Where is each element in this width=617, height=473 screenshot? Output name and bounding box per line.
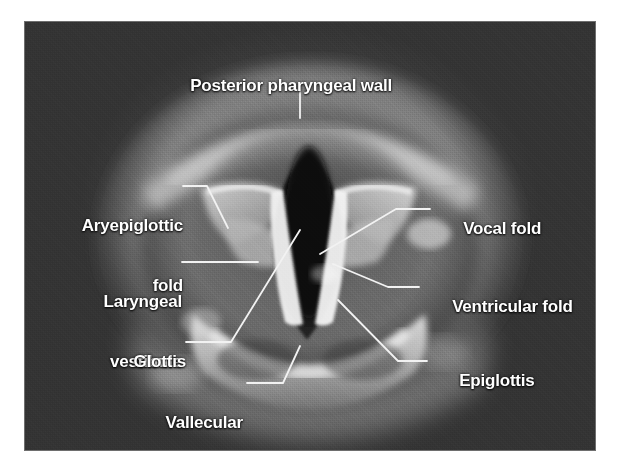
label-text-epiglottis: Epiglottis bbox=[459, 371, 534, 390]
label-vallecular-space: Vallecular space bbox=[100, 373, 243, 473]
label-text-ventricular-fold: Ventricular fold bbox=[452, 297, 573, 316]
figure-root: Posterior pharyngeal wall Aryepiglottic … bbox=[0, 0, 617, 473]
label-posterior-pharyngeal-wall: Posterior pharyngeal wall bbox=[163, 56, 392, 116]
label-text-posterior-pharyngeal-wall: Posterior pharyngeal wall bbox=[190, 76, 392, 95]
label-ventricular-fold: Ventricular fold bbox=[425, 277, 573, 337]
label-text-laryngeal-vestibule-line1: Laryngeal bbox=[36, 292, 182, 312]
label-epiglottis: Epiglottis bbox=[432, 351, 535, 411]
leader-glottis bbox=[186, 230, 300, 342]
label-vocal-fold: Vocal fold bbox=[436, 199, 541, 259]
label-text-aryepiglottic-fold-line1: Aryepiglottic bbox=[44, 216, 183, 236]
leader-epiglottis bbox=[338, 300, 427, 361]
label-text-glottis: Glottis bbox=[134, 352, 186, 371]
leader-aryepiglottic-fold bbox=[183, 186, 228, 228]
label-text-vallecular-space-line1: Vallecular bbox=[100, 413, 243, 433]
leader-vallecular-space bbox=[247, 346, 300, 383]
leader-vocal-fold bbox=[320, 209, 430, 254]
leader-ventricular-fold bbox=[333, 264, 419, 287]
label-text-vocal-fold: Vocal fold bbox=[463, 219, 541, 238]
